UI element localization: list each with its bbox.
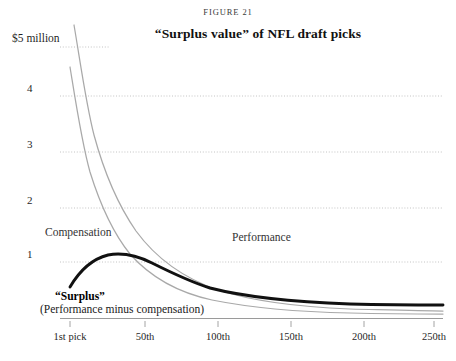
y-axis-label-3: 3	[27, 138, 33, 150]
y-axis-label-4: 4	[27, 82, 33, 94]
figure-container: FIGURE 21 “Surplus value” of NFL draft p…	[0, 0, 456, 361]
gridlines	[60, 47, 443, 262]
y-axis-label-5: $5 million	[12, 32, 60, 44]
series-label-performance: Performance	[232, 231, 291, 243]
x-axis-label-150th: 150th	[251, 331, 331, 342]
series-label-surplus: “Surplus”	[55, 290, 105, 302]
series-line-performance	[74, 25, 443, 311]
y-axis-label-1: 1	[27, 248, 33, 260]
x-axis-label-1st-pick: 1st pick	[30, 331, 110, 342]
x-axis-label-200th: 200th	[324, 331, 404, 342]
x-axis-label-50th: 50th	[105, 331, 185, 342]
x-axis-label-250th: 250th	[394, 331, 456, 342]
series-label-compensation: Compensation	[45, 226, 111, 238]
x-axis-ticks	[70, 321, 434, 327]
surplus-definition-note: (Performance minus compensation)	[40, 303, 204, 315]
y-axis-label-2: 2	[27, 194, 33, 206]
series-line-compensation	[70, 67, 443, 314]
x-axis-label-100th: 100th	[178, 331, 258, 342]
